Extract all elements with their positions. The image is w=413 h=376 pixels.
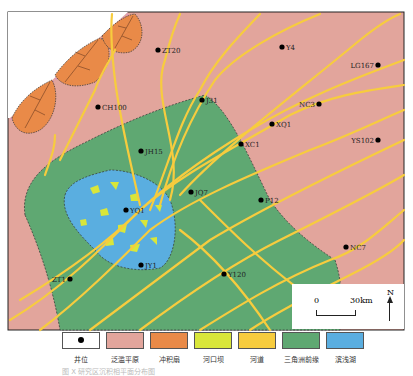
well-marker-icon [199, 97, 204, 102]
figure-caption: 图 X 研究区沉积相平面分布图 [62, 366, 155, 376]
legend-item-shore-lake: 滨浅湖 [326, 332, 364, 364]
well-marker-icon [95, 104, 100, 109]
scale-end-label: 30km [350, 296, 373, 305]
well-label: XC1 [245, 141, 260, 149]
legend-swatch-mouth-bar [194, 332, 232, 349]
well-marker-icon [279, 44, 284, 49]
well-label: LG167 [350, 62, 374, 70]
well-label: ZT1 [52, 276, 66, 284]
well-marker-icon [343, 244, 348, 249]
well-label: CH100 [102, 104, 127, 112]
well-label: JY1 [144, 262, 157, 270]
legend-item-mouth-bar: 河口坝 [194, 332, 232, 364]
legend-item-delta-front: 三角洲前缘 [282, 332, 320, 364]
well-label: Y120 [227, 271, 246, 279]
well-label: NC7 [350, 244, 366, 252]
well-marker-icon [269, 121, 274, 126]
well-label: ZT20 [162, 47, 180, 55]
well-label: JH15 [144, 148, 163, 156]
well-label: P12 [265, 197, 279, 205]
legend-item-well: 井位 [62, 332, 100, 364]
well-marker-icon [221, 271, 226, 276]
legend-item-alluvial-fan: 冲积扇 [150, 332, 188, 364]
well-marker-icon [155, 47, 160, 52]
legend-swatch-delta-front [282, 332, 320, 349]
north-arrow-shaft [389, 299, 390, 321]
legend-swatch-alluvial-fan [150, 332, 188, 349]
legend-label: 井位 [62, 354, 100, 364]
well-marker-icon [138, 262, 143, 267]
facies-map: ZT20Y4LG167CH100J31NC3XQ1XC1YS102JH15JQ7… [0, 0, 413, 332]
scale-start-label: 0 [314, 296, 319, 305]
legend-swatch-floodplain [106, 332, 144, 349]
legend-swatch-well [62, 332, 100, 349]
well-marker-icon [188, 189, 193, 194]
scale-box: 0 30km N [292, 284, 404, 329]
well-marker-icon [138, 148, 143, 153]
legend-label: 泛滥平原 [106, 354, 144, 364]
well-dot-icon [78, 337, 84, 343]
well-marker-icon [316, 101, 321, 106]
well-label: Y4 [285, 44, 296, 52]
well-marker-icon [123, 207, 128, 212]
legend: 井位 泛滥平原 冲积扇 河口坝 河道 三角洲前缘 滨浅湖 [62, 332, 362, 368]
scale-bar [316, 310, 356, 316]
well-label: YS102 [350, 137, 374, 145]
well-marker-icon [238, 141, 243, 146]
legend-item-channel: 河道 [238, 332, 276, 364]
well-marker-icon [258, 197, 263, 202]
legend-label: 三角洲前缘 [282, 354, 320, 364]
legend-item-floodplain: 泛滥平原 [106, 332, 144, 364]
well-marker-icon [375, 62, 380, 67]
legend-label: 滨浅湖 [326, 354, 364, 364]
well-label: J31 [205, 97, 218, 105]
well-label: JQ7 [194, 189, 208, 197]
legend-swatch-shore-lake [326, 332, 364, 349]
well-label: XQ1 [276, 121, 291, 129]
legend-label: 河口坝 [194, 354, 232, 364]
legend-swatch-channel [238, 332, 276, 349]
well-label: NC3 [299, 101, 315, 109]
legend-label: 河道 [238, 354, 276, 364]
well-marker-icon [375, 137, 380, 142]
well-marker-icon [67, 276, 72, 281]
legend-label: 冲积扇 [150, 354, 188, 364]
well-label: YQ1 [129, 207, 145, 215]
